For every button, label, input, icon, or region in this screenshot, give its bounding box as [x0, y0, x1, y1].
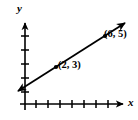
point-label-second: (6, 5) [104, 29, 127, 40]
coordinate-plane-figure: y x (2, 3) (6, 5) [0, 0, 138, 120]
y-axis-label: y [17, 3, 22, 14]
x-axis-label: x [128, 97, 134, 108]
point-label-first: (2, 3) [58, 60, 81, 71]
